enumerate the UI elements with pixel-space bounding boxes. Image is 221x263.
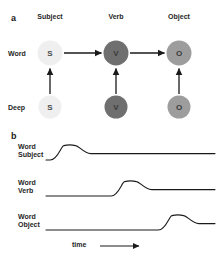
waveform-word-verb <box>46 181 215 196</box>
time-axis-label: time <box>72 241 86 248</box>
waveform-word-object <box>46 215 215 230</box>
panel-b-waveforms <box>0 0 221 263</box>
waveform-word-subject <box>46 145 215 160</box>
figure-container: a Subject Verb Object Word Deep S V O S <box>0 0 221 263</box>
